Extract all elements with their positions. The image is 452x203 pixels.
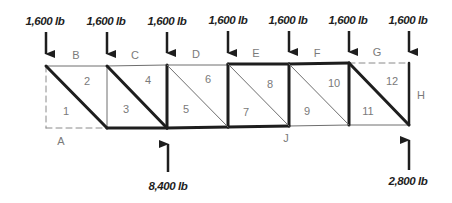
load-label-1: 1,600 lb — [26, 15, 65, 27]
space-label-d: D — [192, 48, 200, 60]
load-label-3: 1,600 lb — [148, 15, 187, 27]
diagonal-5 — [289, 64, 349, 125]
diagonal-3 — [167, 65, 228, 127]
truss-diagram: 1,600 lb 1,600 lb 1,600 lb 1,600 lb 1,60… — [0, 0, 452, 203]
reaction-label-1: 8,400 lb — [149, 180, 188, 192]
top-load-labels: 1,600 lb 1,600 lb 1,600 lb 1,600 lb 1,60… — [26, 14, 428, 27]
reaction-labels: 8,400 lb 2,800 lb — [149, 175, 428, 192]
panel-number-5: 5 — [183, 103, 189, 115]
panel-number-12: 12 — [386, 75, 398, 87]
space-label-j: J — [283, 132, 289, 144]
panel-number-9: 9 — [304, 105, 310, 117]
diagonal-4 — [228, 64, 289, 126]
panel-number-8: 8 — [267, 78, 273, 90]
bottom-chord-3 — [228, 126, 289, 127]
space-label-c: C — [131, 49, 139, 61]
panel-number-4: 4 — [145, 74, 151, 86]
load-label-5: 1,600 lb — [269, 14, 308, 26]
load-label-6: 1,600 lb — [329, 14, 368, 26]
panel-number-1: 1 — [63, 105, 69, 117]
load-label-2: 1,600 lb — [87, 15, 126, 27]
reaction-arrows — [168, 140, 409, 172]
panel-number-6: 6 — [205, 73, 211, 85]
space-label-f: F — [314, 47, 321, 59]
space-label-a: A — [57, 135, 65, 147]
top-chord-2 — [107, 65, 167, 66]
panel-number-2: 2 — [84, 75, 90, 87]
bottom-chord-4 — [289, 125, 349, 126]
panel-number-3: 3 — [123, 103, 129, 115]
top-chord-5 — [289, 63, 349, 64]
truss-members — [46, 63, 409, 128]
load-label-4: 1,600 lb — [209, 14, 248, 26]
space-label-e: E — [252, 47, 259, 59]
space-label-g: G — [373, 46, 382, 58]
load-label-7: 1,600 lb — [389, 14, 428, 26]
top-load-arrows — [46, 31, 409, 54]
panel-number-7: 7 — [243, 106, 249, 118]
diagonal-6 — [349, 63, 409, 125]
space-label-h: H — [417, 89, 425, 101]
reaction-label-2: 2,800 lb — [388, 175, 428, 187]
space-letters: B C D E F G H A J — [57, 46, 425, 147]
diagonal-2 — [107, 66, 167, 128]
panel-number-11: 11 — [362, 105, 373, 117]
space-label-b: B — [72, 49, 79, 61]
panel-number-10: 10 — [328, 77, 340, 89]
bottom-chord-2 — [167, 127, 228, 128]
diagonal-1 — [46, 66, 107, 128]
